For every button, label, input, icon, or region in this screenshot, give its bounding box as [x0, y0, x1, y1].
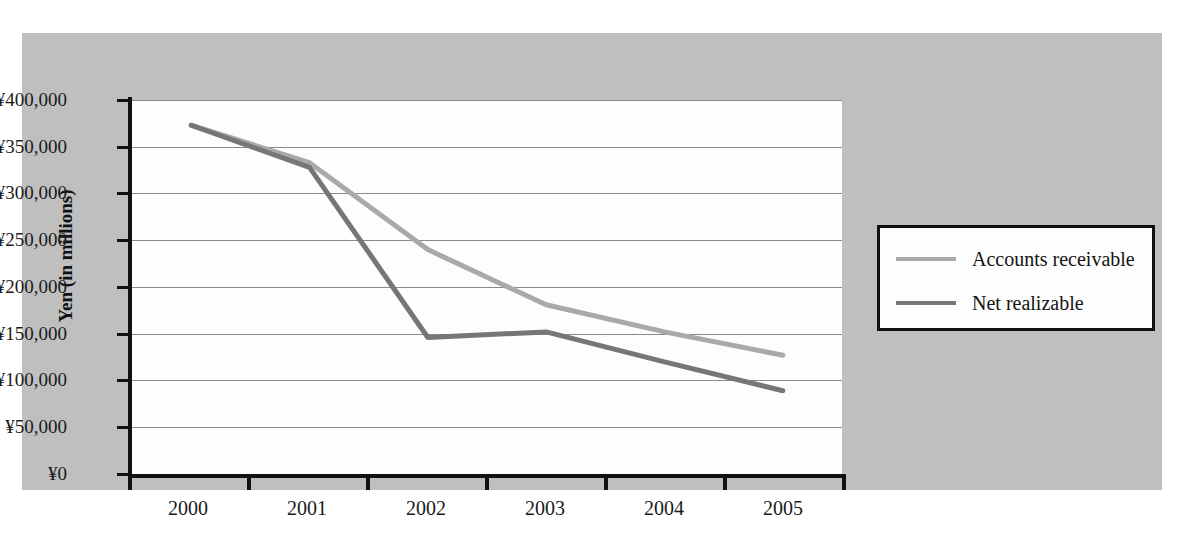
series-line-net-realizable [191, 125, 783, 391]
y-tick-label-400000: ¥400,000 [0, 89, 67, 111]
x-tick-label-2001: 2001 [262, 497, 352, 520]
y-tick-200000 [117, 286, 132, 289]
y-tick-label-150000: ¥150,000 [0, 323, 67, 345]
legend-label-net-realizable: Net realizable [972, 292, 1084, 315]
y-tick-150000 [117, 333, 132, 336]
y-tick-label-50000: ¥50,000 [0, 416, 67, 438]
y-tick-100000 [117, 379, 132, 382]
y-tick-400000 [117, 99, 132, 102]
legend-item-accounts-receivable: Accounts receivable [896, 244, 1135, 274]
y-tick-300000 [117, 192, 132, 195]
x-tick-4 [604, 476, 608, 490]
x-tick-label-2002: 2002 [381, 497, 471, 520]
y-tick-50000 [117, 426, 132, 429]
x-tick-6 [842, 476, 846, 490]
y-tick-350000 [117, 146, 132, 149]
x-tick-0 [128, 476, 132, 490]
x-tick-5 [723, 476, 727, 490]
y-tick-label-300000: ¥300,000 [0, 182, 67, 204]
x-tick-label-2003: 2003 [500, 497, 590, 520]
y-tick-label-0: ¥0 [0, 463, 67, 485]
series-line-accounts-receivable [191, 125, 783, 355]
legend-swatch-accounts-receivable [896, 257, 956, 261]
x-tick-1 [247, 476, 251, 490]
chart-figure: Yen (in millions) ¥400,000 [0, 0, 1183, 552]
y-tick-label-100000: ¥100,000 [0, 369, 67, 391]
legend-label-accounts-receivable: Accounts receivable [972, 248, 1135, 271]
y-tick-label-200000: ¥200,000 [0, 276, 67, 298]
chart-legend: Accounts receivable Net realizable [877, 225, 1155, 331]
legend-swatch-net-realizable [896, 301, 956, 305]
chart-panel: Yen (in millions) ¥400,000 [22, 33, 1162, 490]
x-tick-label-2000: 2000 [143, 497, 233, 520]
x-tick-2 [366, 476, 370, 490]
y-tick-label-350000: ¥350,000 [0, 136, 67, 158]
x-tick-label-2004: 2004 [619, 497, 709, 520]
y-tick-label-250000: ¥250,000 [0, 229, 67, 251]
y-tick-250000 [117, 239, 132, 242]
series-layer [132, 100, 842, 474]
x-tick-label-2005: 2005 [738, 497, 828, 520]
x-tick-3 [485, 476, 489, 490]
legend-item-net-realizable: Net realizable [896, 288, 1084, 318]
